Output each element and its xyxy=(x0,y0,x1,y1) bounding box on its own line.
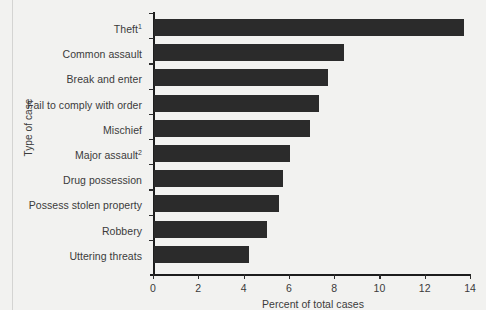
x-axis-tick xyxy=(198,274,199,279)
x-axis-title: Percent of total cases xyxy=(153,298,473,310)
category-label: Mischief xyxy=(103,122,142,139)
footnote-marker: 2 xyxy=(138,149,142,156)
bar xyxy=(154,44,344,61)
bar xyxy=(154,195,279,212)
x-axis-tick xyxy=(153,274,154,279)
y-axis-tick xyxy=(149,139,154,140)
x-axis-tick xyxy=(470,274,471,279)
bar xyxy=(154,145,290,162)
x-axis-tick xyxy=(289,274,290,279)
x-axis-tick-label: 6 xyxy=(274,282,304,294)
x-axis-tick xyxy=(379,274,380,279)
y-axis-tick xyxy=(149,164,154,165)
x-axis-tick-label: 12 xyxy=(410,282,440,294)
y-axis-category-labels: Theft1Common assaultBreak and enterFail … xyxy=(20,14,148,266)
category-label: Robbery xyxy=(102,223,142,240)
y-axis-tick xyxy=(149,240,154,241)
category-label: Possess stolen property xyxy=(29,197,142,214)
category-label: Fail to comply with order xyxy=(27,97,142,114)
y-axis-tick xyxy=(149,189,154,190)
y-axis-tick xyxy=(149,38,154,39)
y-axis-tick xyxy=(149,215,154,216)
x-axis-tick-label: 4 xyxy=(229,282,259,294)
bar xyxy=(154,170,283,187)
category-label: Break and enter xyxy=(67,71,142,88)
bar xyxy=(154,246,249,263)
category-label: Uttering threats xyxy=(69,248,142,265)
plot-area: 02468101214 Percent of total cases xyxy=(153,12,473,274)
horizontal-bar-chart: Type of case Theft1Common assaultBreak a… xyxy=(0,0,486,310)
x-axis-tick-label: 0 xyxy=(138,282,168,294)
y-axis-tick xyxy=(149,114,154,115)
bar xyxy=(154,120,310,137)
y-axis-tick xyxy=(149,89,154,90)
x-axis-tick-label: 10 xyxy=(364,282,394,294)
category-label: Major assault2 xyxy=(75,147,142,164)
category-label: Drug possession xyxy=(63,172,142,189)
x-axis-tick-label: 8 xyxy=(319,282,349,294)
y-axis-tick xyxy=(149,13,154,14)
bar xyxy=(154,95,319,112)
x-axis-tick xyxy=(425,274,426,279)
x-axis-tick-label: 2 xyxy=(183,282,213,294)
y-axis-tick xyxy=(149,63,154,64)
footnote-marker: 1 xyxy=(138,23,142,30)
category-label: Common assault xyxy=(63,46,142,63)
x-axis-tick xyxy=(244,274,245,279)
bar xyxy=(154,19,464,36)
x-axis-tick xyxy=(334,274,335,279)
x-axis-tick-label: 14 xyxy=(455,282,485,294)
category-label: Theft1 xyxy=(114,21,142,38)
bar xyxy=(154,69,328,86)
bar xyxy=(154,221,267,238)
